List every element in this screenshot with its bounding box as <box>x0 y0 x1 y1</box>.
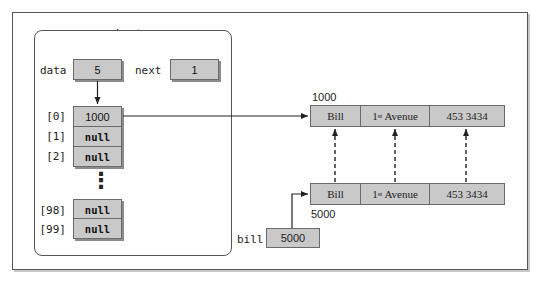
arrow-bill-to-record5000 <box>292 194 308 228</box>
arrows-layer <box>0 0 536 283</box>
